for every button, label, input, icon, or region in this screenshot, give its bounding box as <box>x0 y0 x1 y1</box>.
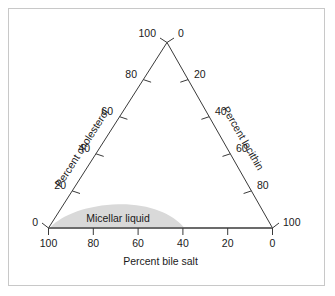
right-axis-label-80: 80 <box>257 179 269 191</box>
apex-tick-left <box>160 38 167 43</box>
apex-tick-right <box>167 38 174 43</box>
right-axis-tick-80 <box>244 191 252 194</box>
left-axis-line <box>49 43 168 229</box>
left-axis-tick-40 <box>96 154 104 157</box>
left-axis-label-80: 80 <box>125 68 137 80</box>
left-axis-label-0: 0 <box>32 216 38 228</box>
apex-label-cholesterol-100: 100 <box>138 27 156 39</box>
left-axis-tick-80 <box>143 80 151 83</box>
bottom-axis-title: Percent bile salt <box>123 255 198 267</box>
bottom-axis-label-20: 20 <box>222 237 234 249</box>
right-axis-title: Percent lecithin <box>220 104 266 172</box>
right-axis-label-20: 20 <box>194 68 206 80</box>
bottom-left-vertex-tick-up <box>42 223 49 228</box>
bottom-axis-label-60: 60 <box>132 237 144 249</box>
bottom-axis-label-40: 40 <box>177 237 189 249</box>
right-axis-label-100: 100 <box>283 216 301 228</box>
apex-label-lecithin-0: 0 <box>178 27 184 39</box>
ternary-plot: 100 0 0 20 40 60 80 20 40 60 80 100 100 … <box>0 0 335 296</box>
ternary-diagram-figure: 100 0 0 20 40 60 80 20 40 60 80 100 100 … <box>0 0 335 296</box>
right-axis-tick-60 <box>223 154 231 157</box>
bottom-axis-label-0: 0 <box>270 237 276 249</box>
right-axis-tick-40 <box>201 117 209 120</box>
right-axis-line <box>167 43 273 229</box>
right-axis-tick-20 <box>180 80 188 83</box>
bottom-axis-label-80: 80 <box>87 237 99 249</box>
left-axis-tick-60 <box>120 117 128 120</box>
bottom-right-vertex-tick-up <box>273 223 280 228</box>
micellar-liquid-label: Micellar liquid <box>86 212 150 224</box>
left-axis-tick-20 <box>72 191 80 194</box>
bottom-axis-label-100: 100 <box>40 237 58 249</box>
